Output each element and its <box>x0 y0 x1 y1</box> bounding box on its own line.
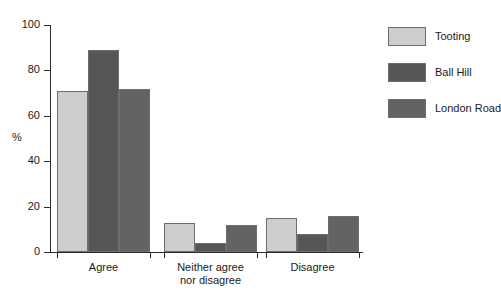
y-axis-tick-label: 0 <box>0 246 40 257</box>
x-axis-tick <box>164 252 165 258</box>
category-label: Agree <box>44 261 164 274</box>
category-label-line: Agree <box>44 261 164 274</box>
bar <box>266 218 297 252</box>
plot-area <box>50 25 362 252</box>
x-axis-tick <box>57 252 58 258</box>
bar <box>297 234 328 252</box>
category-label-line: nor disagree <box>151 274 271 287</box>
bar <box>57 91 88 252</box>
legend-item: London Road <box>388 90 498 126</box>
y-axis-tick-label: 100 <box>0 19 40 30</box>
bar <box>195 243 226 252</box>
legend-item: Ball Hill <box>388 54 498 90</box>
y-axis-tick <box>44 252 51 253</box>
bar <box>119 89 150 252</box>
y-axis-tick-label: 40 <box>0 155 40 166</box>
y-axis-tick-label: 20 <box>0 201 40 212</box>
legend-label: Tooting <box>435 30 470 42</box>
legend-label: London Road <box>435 102 501 114</box>
x-axis-tick <box>266 252 267 258</box>
y-axis-tick-label: 80 <box>0 64 40 75</box>
x-axis-tick <box>359 252 360 258</box>
bar <box>226 225 257 252</box>
bar <box>164 223 195 253</box>
legend-swatch <box>388 99 426 118</box>
category-label: Disagree <box>253 261 373 274</box>
y-axis-title: % <box>12 131 22 143</box>
bar <box>88 50 119 252</box>
legend-label: Ball Hill <box>435 66 472 78</box>
y-axis-tick-label: 60 <box>0 110 40 121</box>
bar <box>328 216 359 252</box>
category-label-line: Disagree <box>253 261 373 274</box>
x-axis-tick <box>257 252 258 258</box>
legend-item: Tooting <box>388 18 498 54</box>
legend-swatch <box>388 27 426 46</box>
legend-swatch <box>388 63 426 82</box>
x-axis-line <box>50 252 363 253</box>
x-axis-tick <box>150 252 151 258</box>
legend: TootingBall HillLondon Road <box>388 18 498 126</box>
